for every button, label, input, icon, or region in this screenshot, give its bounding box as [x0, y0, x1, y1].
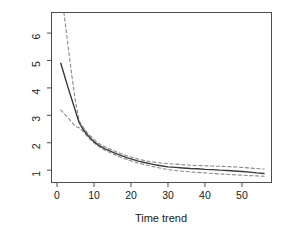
y-tick-label: 5 — [31, 61, 43, 67]
x-tick-label: 20 — [125, 189, 137, 201]
chart-container: 123456 01020304050 Returns to scale Time… — [0, 0, 283, 235]
x-tick-label: 30 — [162, 189, 174, 201]
x-tick-label: 0 — [54, 189, 60, 201]
y-tick-label: 6 — [31, 34, 43, 40]
returns-to-scale-plot: 123456 01020304050 Returns to scale Time… — [0, 0, 283, 235]
x-tick-label: 50 — [236, 189, 248, 201]
y-tick-label: 2 — [31, 143, 43, 149]
y-tick-label: 4 — [31, 88, 43, 94]
x-tick-label: 40 — [199, 189, 211, 201]
y-tick-label: 3 — [31, 116, 43, 122]
x-axis-title: Time trend — [135, 212, 187, 224]
x-tick-label: 10 — [88, 189, 100, 201]
y-tick-label: 1 — [31, 171, 43, 177]
